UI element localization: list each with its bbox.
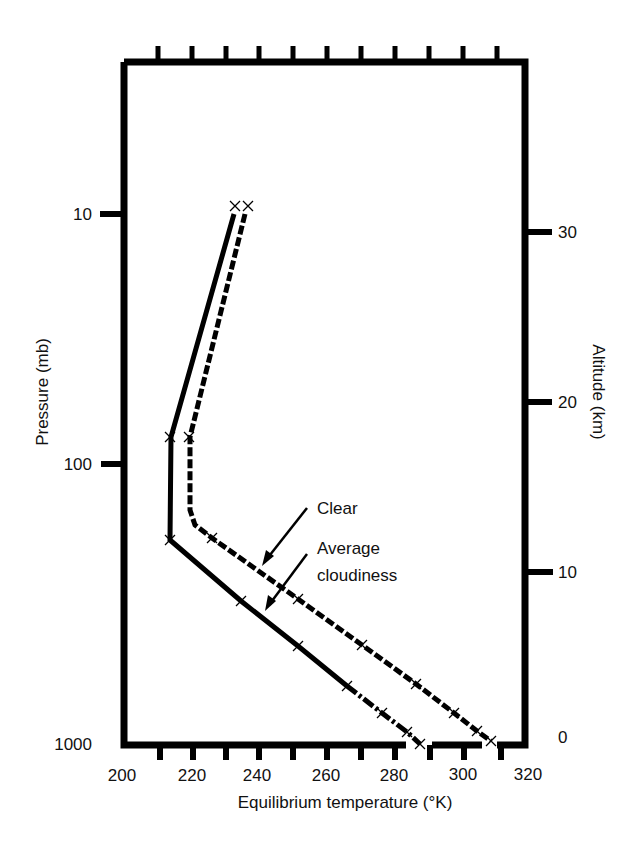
- left-ticks: [100, 214, 124, 464]
- x-axis-title: Equilibrium temperature (°K): [238, 793, 453, 812]
- y2-tick-10: 10: [558, 563, 577, 582]
- y2-axis-title: Altitude (km): [589, 344, 608, 439]
- y2-tick-30: 30: [558, 223, 577, 242]
- series-average-cloudiness-markers: [165, 201, 425, 749]
- annotation-average-cloudiness: Average cloudiness: [265, 539, 397, 611]
- series-clear-markers: [184, 201, 496, 746]
- x-tick-200: 200: [108, 766, 136, 785]
- x-tick-labels: 200 220 240 260 280 300 320: [108, 765, 542, 785]
- chart-canvas: 200 220 240 260 280 300 320 Equilibrium …: [0, 0, 630, 843]
- y-tick-labels: 10 100 1000: [54, 205, 92, 754]
- y-axis-title: Pressure (mb): [33, 338, 52, 446]
- x-tick-320: 320: [514, 765, 542, 784]
- y-tick-10: 10: [73, 205, 92, 224]
- x-tick-280: 280: [380, 766, 408, 785]
- series-clear-line: [190, 214, 491, 741]
- x-tick-220: 220: [178, 766, 206, 785]
- plot-frame: [124, 62, 525, 745]
- x-tick-240: 240: [243, 766, 271, 785]
- y2-tick-0: 0: [558, 728, 567, 747]
- y-tick-1000: 1000: [54, 735, 92, 754]
- x-tick-300: 300: [449, 765, 477, 784]
- y2-tick-20: 20: [558, 393, 577, 412]
- annotation-average-label-line1: Average: [317, 539, 380, 558]
- annotation-clear-label: Clear: [317, 499, 358, 518]
- x-tick-260: 260: [312, 766, 340, 785]
- right-ticks: [525, 232, 553, 572]
- y-tick-100: 100: [64, 455, 92, 474]
- annotation-average-label-line2: cloudiness: [317, 566, 397, 585]
- y2-tick-labels: 30 20 10 0: [558, 223, 577, 747]
